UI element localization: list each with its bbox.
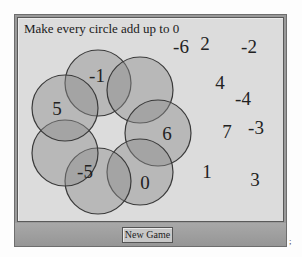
placed-number-tile[interactable]: 5 [52,99,62,118]
placed-number-tile[interactable]: -5 [77,162,93,181]
available-number-tile[interactable]: -2 [241,37,257,56]
trailing-punctuation: ; [289,236,292,246]
available-number-tile[interactable]: 1 [202,162,212,181]
new-game-button[interactable]: New Game [122,227,173,243]
available-number-tile[interactable]: -4 [235,89,251,108]
placed-number-tile[interactable]: -1 [89,66,105,85]
available-number-tile[interactable]: 3 [250,170,260,189]
available-number-tile[interactable]: 4 [215,73,225,92]
available-number-tile[interactable]: -3 [248,118,264,137]
placed-number-tile[interactable]: 6 [162,124,172,143]
available-number-tile[interactable]: 7 [222,122,232,141]
available-number-tile[interactable]: 2 [200,34,210,53]
placed-number-tile[interactable]: 0 [140,173,150,192]
available-number-tile[interactable]: -6 [173,37,189,56]
